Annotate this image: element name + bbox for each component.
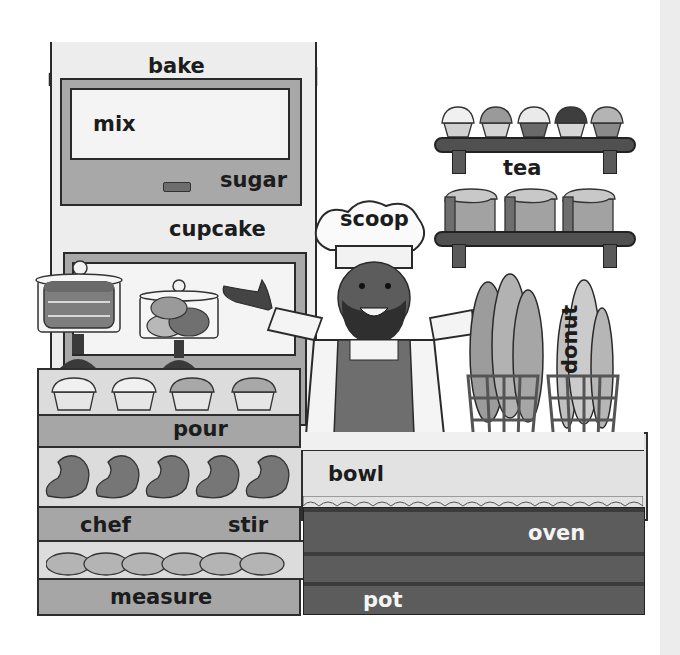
word-donut[interactable]: donut	[560, 305, 581, 374]
word-bake[interactable]: bake	[148, 56, 205, 77]
word-oven[interactable]: oven	[528, 523, 585, 544]
side-panel	[660, 0, 680, 655]
word-stir[interactable]: stir	[228, 515, 268, 536]
word-scoop[interactable]: scoop	[340, 209, 409, 230]
counter-stripe	[304, 582, 644, 586]
word-measure[interactable]: measure	[110, 587, 212, 608]
macaron-stand	[137, 278, 221, 370]
shelf-bracket	[452, 150, 466, 174]
word-bowl[interactable]: bowl	[328, 464, 384, 485]
oven-handle	[163, 182, 191, 192]
counter-lid	[301, 432, 644, 451]
shelf-bracket	[603, 150, 617, 174]
word-pot[interactable]: pot	[363, 590, 403, 611]
counter-base	[303, 507, 645, 615]
counter-scallop-trim	[303, 496, 643, 512]
case-cupcakes	[50, 374, 290, 412]
word-sugar[interactable]: sugar	[220, 170, 287, 191]
word-pour[interactable]: pour	[173, 419, 228, 440]
top-shelf-cupcakes	[438, 105, 628, 139]
baguette-baskets	[462, 272, 642, 452]
case-buns	[46, 548, 302, 576]
word-tea[interactable]: tea	[503, 158, 541, 179]
layer-cake-stand	[30, 258, 130, 370]
shelf-bracket	[603, 244, 617, 268]
word-mix[interactable]: mix	[93, 114, 136, 135]
case-croissants	[42, 452, 298, 504]
counter-stripe	[304, 552, 644, 556]
word-chef[interactable]: chef	[80, 515, 131, 536]
word-cupcake[interactable]: cupcake	[169, 219, 266, 240]
